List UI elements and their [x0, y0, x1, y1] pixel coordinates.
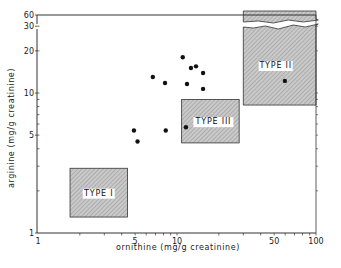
x-tick-label: 50 — [269, 237, 279, 246]
region-type-ii-upper — [243, 11, 318, 23]
data-point — [283, 79, 287, 83]
data-point — [185, 82, 189, 86]
data-point — [201, 71, 205, 75]
y-tick-label: 30 — [24, 22, 34, 31]
regions — [70, 11, 318, 217]
data-point — [184, 125, 188, 129]
y-tick-label: 1 — [29, 229, 34, 238]
data-point — [151, 75, 155, 79]
data-point — [135, 139, 139, 143]
y-tick-label: 20 — [24, 47, 34, 56]
data-point — [163, 81, 167, 85]
y-tick-label: 60 — [24, 11, 34, 20]
x-tick-label: 100 — [308, 237, 323, 246]
data-point — [201, 87, 205, 91]
data-point — [164, 128, 168, 132]
scatter-chart: 1510501001510203060 TYPE ITYPE IIITYPE I… — [0, 0, 341, 268]
data-point — [132, 128, 136, 132]
data-point — [181, 55, 185, 59]
y-tick-label: 5 — [29, 131, 34, 140]
y-tick-label: 10 — [24, 89, 34, 98]
data-point — [194, 64, 198, 68]
region-label-type3: TYPE III — [195, 117, 232, 126]
region-label-type1: TYPE I — [83, 189, 113, 198]
data-point — [189, 66, 193, 70]
x-tick-label: 1 — [35, 237, 40, 246]
y-axis-title: arginine (mg/g creatinine) — [7, 68, 16, 188]
region-label-type-ii: TYPE II — [258, 61, 292, 70]
x-axis-title: ornithine (mg/g creatinine) — [116, 243, 240, 252]
